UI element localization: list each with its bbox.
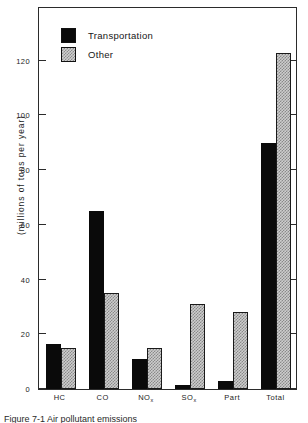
x-label-co: CO xyxy=(81,393,124,402)
bar-groups xyxy=(39,8,296,389)
x-label-part: Part xyxy=(211,393,254,402)
bar-co-transportation xyxy=(89,211,104,389)
y-tick-label: 60 xyxy=(2,221,30,230)
y-tick-label: 20 xyxy=(2,330,30,339)
y-tick-label: 40 xyxy=(2,276,30,285)
x-label-no: NOx xyxy=(124,393,167,402)
bar-co-other xyxy=(104,293,119,389)
bar-so-transportation xyxy=(175,385,190,389)
y-tick-label: 120 xyxy=(2,57,30,66)
figure-container: (millions of tons per year) 020406080100… xyxy=(0,0,308,423)
bar-total-transportation xyxy=(261,143,276,389)
bar-hc-other xyxy=(61,348,76,389)
bar-no-other xyxy=(147,348,162,389)
bar-hc-transportation xyxy=(46,344,61,389)
bar-total-other xyxy=(276,53,291,389)
y-tick-label: 0 xyxy=(2,385,30,394)
y-tick-label: 80 xyxy=(2,166,30,175)
bar-part-other xyxy=(233,312,248,389)
x-label-so: SOx xyxy=(168,393,211,402)
x-label-total: Total xyxy=(254,393,297,402)
plot-area: Transportation Other xyxy=(38,7,297,390)
x-label-hc: HC xyxy=(38,393,81,402)
bar-no-transportation xyxy=(132,359,147,389)
y-tick-label: 100 xyxy=(2,111,30,120)
figure-caption: Figure 7-1 Air pollutant emissions xyxy=(4,414,137,423)
bar-part-transportation xyxy=(218,381,233,389)
bar-so-other xyxy=(190,304,205,389)
